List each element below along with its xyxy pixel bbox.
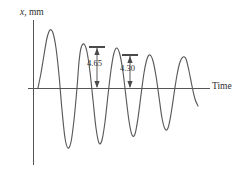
waveform-group bbox=[38, 30, 198, 148]
dimension-2-arrow-down bbox=[127, 81, 132, 88]
dimension-1-arrow-down bbox=[94, 81, 99, 88]
amplitude-dimension-1-label: 4.65 bbox=[87, 59, 102, 68]
x-axis-label: Time bbox=[212, 82, 232, 92]
damped-sine-curve bbox=[38, 30, 198, 148]
figure-canvas bbox=[0, 0, 240, 174]
damped-oscillation-figure: x, mm Time 4.65 4.30 bbox=[0, 0, 240, 174]
amplitude-dimension-2-label: 4.30 bbox=[120, 64, 135, 73]
dimension-2-arrow-up bbox=[127, 56, 132, 63]
dimension-1-arrow-up bbox=[94, 48, 99, 55]
y-axis-label-unit: mm bbox=[29, 7, 44, 17]
y-axis-label: x, mm bbox=[20, 8, 44, 18]
